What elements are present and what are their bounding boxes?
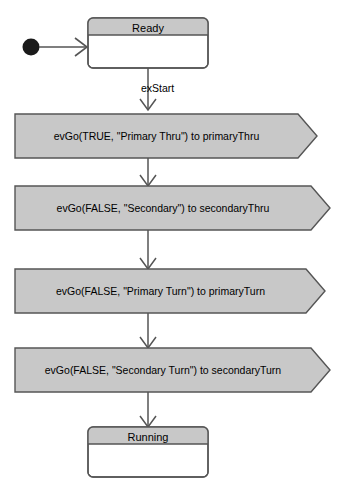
initial-pseudostate-node: [23, 39, 40, 56]
diagram-vector-layer: [0, 0, 347, 501]
transition-label-secondary-thru: evGo(FALSE, "Secondary") to secondaryThr…: [15, 203, 311, 214]
transition-label-primary-turn: evGo(FALSE, "Primary Turn") to primaryTu…: [15, 286, 306, 297]
transition-label-secondary-turn: evGo(FALSE, "Secondary Turn") to seconda…: [15, 365, 311, 376]
edge-label-exstart: exStart: [141, 83, 174, 94]
transition-label-primary-thru: evGo(TRUE, "Primary Thru") to primaryThr…: [15, 131, 298, 142]
state-diagram-canvas: Ready exStart evGo(TRUE, "Primary Thru")…: [0, 0, 347, 501]
state-ready-label: Ready: [88, 23, 208, 34]
state-running-label: Running: [88, 432, 208, 443]
